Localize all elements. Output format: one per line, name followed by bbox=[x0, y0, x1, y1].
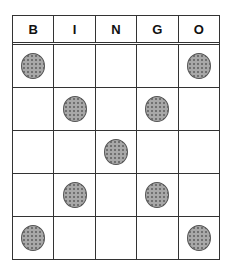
grid-cell[interactable] bbox=[137, 131, 178, 173]
marker-chip-icon bbox=[145, 182, 169, 208]
marker-chip-icon bbox=[63, 182, 87, 208]
grid-cell[interactable] bbox=[179, 88, 219, 130]
grid-cell[interactable] bbox=[96, 217, 137, 259]
grid-row bbox=[13, 131, 219, 174]
marker-chip-icon bbox=[21, 53, 45, 79]
grid-cell[interactable] bbox=[179, 131, 219, 173]
grid-cell[interactable] bbox=[137, 45, 178, 87]
grid-cell[interactable] bbox=[13, 217, 54, 259]
grid-cell[interactable] bbox=[179, 174, 219, 216]
grid-cell[interactable] bbox=[137, 217, 178, 259]
header-letter-i: I bbox=[54, 16, 95, 42]
grid-cell[interactable] bbox=[54, 45, 95, 87]
grid-cell[interactable] bbox=[54, 174, 95, 216]
marker-chip-icon bbox=[63, 96, 87, 122]
grid-cell[interactable] bbox=[179, 45, 219, 87]
header-letter-b: B bbox=[13, 16, 54, 42]
header-letter-g: G bbox=[137, 16, 178, 42]
grid-row bbox=[13, 174, 219, 217]
marker-chip-icon bbox=[187, 225, 211, 251]
bingo-grid bbox=[13, 45, 219, 259]
grid-cell[interactable] bbox=[54, 88, 95, 130]
grid-cell[interactable] bbox=[96, 131, 137, 173]
header-letter-n: N bbox=[96, 16, 137, 42]
grid-cell[interactable] bbox=[96, 45, 137, 87]
grid-cell[interactable] bbox=[13, 45, 54, 87]
bingo-card: B I N G O bbox=[12, 15, 220, 260]
marker-chip-icon bbox=[21, 225, 45, 251]
grid-row bbox=[13, 45, 219, 88]
grid-cell[interactable] bbox=[96, 174, 137, 216]
header-letter-o: O bbox=[179, 16, 219, 42]
grid-cell[interactable] bbox=[137, 174, 178, 216]
marker-chip-icon bbox=[187, 53, 211, 79]
grid-row bbox=[13, 217, 219, 259]
marker-chip-icon bbox=[145, 96, 169, 122]
grid-row bbox=[13, 88, 219, 131]
grid-cell[interactable] bbox=[13, 88, 54, 130]
grid-cell[interactable] bbox=[179, 217, 219, 259]
grid-cell[interactable] bbox=[137, 88, 178, 130]
bingo-header: B I N G O bbox=[13, 16, 219, 45]
grid-cell[interactable] bbox=[13, 131, 54, 173]
grid-cell[interactable] bbox=[13, 174, 54, 216]
marker-chip-icon bbox=[104, 139, 128, 165]
grid-cell[interactable] bbox=[54, 131, 95, 173]
grid-cell[interactable] bbox=[96, 88, 137, 130]
grid-cell[interactable] bbox=[54, 217, 95, 259]
